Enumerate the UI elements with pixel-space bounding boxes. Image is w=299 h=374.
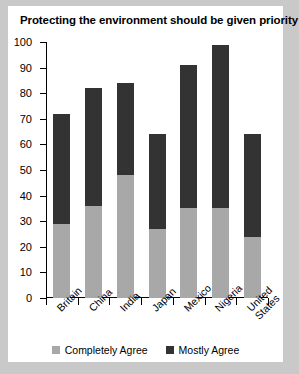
y-axis-tick-label: 70 — [20, 113, 32, 125]
x-axis-tick — [46, 298, 47, 305]
bar-group[interactable] — [244, 134, 261, 298]
y-axis-tick-label: 30 — [20, 215, 32, 227]
bar-segment[interactable] — [85, 206, 102, 298]
y-axis-tick-label: 20 — [20, 241, 32, 253]
y-axis-tick — [40, 119, 46, 120]
y-axis-tick-label: 40 — [20, 190, 32, 202]
legend-swatch-icon — [166, 346, 174, 354]
chart-title: Protecting the environment should be giv… — [20, 14, 278, 26]
bar-segment[interactable] — [53, 224, 70, 298]
bar-segment[interactable] — [117, 175, 134, 298]
bar-segment[interactable] — [244, 237, 261, 298]
x-axis-tick — [109, 298, 110, 305]
y-axis-tick-label: 80 — [20, 87, 32, 99]
y-axis-tick-label: 0 — [26, 292, 32, 304]
bar-segment[interactable] — [85, 88, 102, 206]
bar-segment[interactable] — [53, 114, 70, 224]
y-axis-tick-label: 100 — [14, 36, 32, 48]
y-axis-tick-label: 60 — [20, 138, 32, 150]
y-axis-tick — [40, 221, 46, 222]
bars-layer — [46, 42, 268, 298]
y-axis-tick — [40, 196, 46, 197]
legend-swatch-icon — [52, 346, 60, 354]
bar-segment[interactable] — [212, 45, 229, 209]
bar-segment[interactable] — [117, 83, 134, 175]
bar-group[interactable] — [212, 45, 229, 298]
y-axis-tick-label: 50 — [20, 164, 32, 176]
x-axis-tick — [141, 298, 142, 305]
x-axis-tick — [236, 298, 237, 305]
y-axis-tick — [40, 170, 46, 171]
bar-group[interactable] — [180, 65, 197, 298]
bar-segment[interactable] — [212, 208, 229, 298]
bar-group[interactable] — [85, 88, 102, 298]
bar-segment[interactable] — [180, 65, 197, 208]
legend-label: Mostly Agree — [179, 344, 240, 356]
legend-label: Completely Agree — [65, 344, 148, 356]
y-axis-tick-label: 10 — [20, 266, 32, 278]
y-axis-tick — [40, 247, 46, 248]
plot-area: 0102030405060708090100 — [46, 42, 268, 298]
chart-page: Protecting the environment should be giv… — [0, 0, 289, 374]
legend-item[interactable]: Completely Agree — [52, 344, 148, 356]
x-axis-tick — [173, 298, 174, 305]
bar-group[interactable] — [117, 83, 134, 298]
y-axis-tick — [40, 144, 46, 145]
bar-group[interactable] — [149, 134, 166, 298]
x-axis-tick — [205, 298, 206, 305]
legend-item[interactable]: Mostly Agree — [166, 344, 240, 356]
bar-segment[interactable] — [244, 134, 261, 236]
bar-group[interactable] — [53, 114, 70, 298]
bar-segment[interactable] — [149, 134, 166, 229]
bar-segment[interactable] — [180, 208, 197, 298]
y-axis-tick — [40, 68, 46, 69]
y-axis-tick-label: 90 — [20, 62, 32, 74]
chart-card: Protecting the environment should be giv… — [8, 6, 283, 362]
chart-legend: Completely AgreeMostly Agree — [8, 344, 283, 356]
x-axis-tick — [78, 298, 79, 305]
y-axis-tick — [40, 272, 46, 273]
y-axis-tick — [40, 42, 46, 43]
y-axis-tick — [40, 93, 46, 94]
bar-segment[interactable] — [149, 229, 166, 298]
